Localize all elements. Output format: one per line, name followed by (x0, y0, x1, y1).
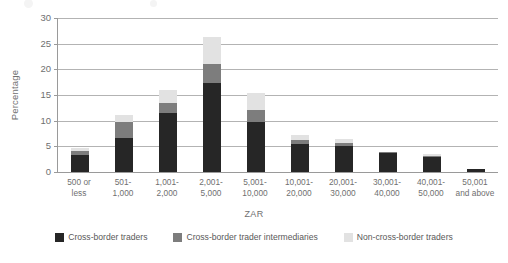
bar-segment[interactable] (159, 103, 177, 113)
x-axis-tick-label-line: 501- (113, 177, 134, 188)
legend-swatch (344, 233, 353, 242)
legend-swatch (173, 233, 182, 242)
scan-artifact (24, 0, 33, 8)
bar-segment[interactable] (291, 144, 309, 172)
bar-segment[interactable] (335, 146, 353, 172)
x-axis-tick-label: 2,001-5,000 (199, 177, 223, 199)
bar-group[interactable] (159, 90, 177, 172)
bar-series-container (58, 18, 498, 172)
bar-group[interactable] (203, 37, 221, 172)
y-axis-tick-label: 15 (40, 90, 51, 100)
legend-item[interactable]: Cross-border traders (55, 232, 147, 242)
x-axis-tick-label: 501-1,000 (113, 177, 134, 199)
bar-group[interactable] (467, 169, 485, 172)
x-axis-tick-label: 10,001-20,000 (285, 177, 313, 199)
bar-segment[interactable] (247, 110, 265, 122)
bar-group[interactable] (291, 135, 309, 172)
scan-artifact (150, 0, 157, 7)
bar-segment[interactable] (159, 90, 177, 103)
bar-segment[interactable] (159, 113, 177, 172)
bar-group[interactable] (115, 115, 133, 172)
bar-segment[interactable] (203, 83, 221, 172)
y-axis-tick-label: 30 (40, 13, 51, 23)
bar-segment[interactable] (247, 122, 265, 172)
bar-segment[interactable] (247, 93, 265, 110)
x-axis-tick-label-line: 10,001- (285, 177, 313, 188)
chart-legend: Cross-border tradersCross-border trader … (0, 232, 508, 242)
legend-label: Cross-border traders (68, 232, 147, 242)
y-axis-tick (54, 172, 58, 173)
bar-group[interactable] (71, 148, 89, 172)
x-axis-tick-label-line: 2,001- (199, 177, 223, 188)
y-axis-tick-label: 0 (46, 167, 51, 177)
x-axis-tick-label-line: 10,000 (242, 188, 267, 199)
x-axis-tick-label-line: 40,001- (417, 177, 445, 188)
bar-segment[interactable] (115, 122, 133, 138)
plot-area: 051015202530 (57, 18, 498, 173)
bar-group[interactable] (247, 93, 265, 172)
x-axis-tick-label-line: and above (456, 188, 495, 199)
y-axis-tick-label: 5 (46, 142, 51, 152)
legend-swatch (55, 233, 64, 242)
legend-item[interactable]: Cross-border trader intermediaries (173, 232, 317, 242)
x-axis-tick-label: 40,001-50,000 (417, 177, 445, 199)
x-axis-tick-label-line: 40,000 (373, 188, 401, 199)
bar-segment[interactable] (115, 138, 133, 172)
x-axis-tick-label-line: 2,000 (155, 188, 179, 199)
x-axis-tick-label-line: 1,001- (155, 177, 179, 188)
bar-segment[interactable] (115, 115, 133, 122)
x-axis-tick-label: 500 orless (67, 177, 91, 199)
chart-figure: Percentage 051015202530 500 orless501-1,… (0, 0, 508, 263)
bar-segment[interactable] (71, 155, 89, 172)
legend-label: Cross-border trader intermediaries (186, 232, 317, 242)
x-axis-tick-label-line: 20,000 (285, 188, 313, 199)
y-axis-tick-label: 20 (40, 65, 51, 75)
bar-group[interactable] (379, 152, 397, 173)
x-axis-tick-label-line: 5,000 (199, 188, 223, 199)
y-axis-tick-label: 10 (40, 116, 51, 126)
bar-segment[interactable] (203, 37, 221, 64)
x-axis-tick-label: 1,001-2,000 (155, 177, 179, 199)
x-axis-tick-label-line: 50,000 (417, 188, 445, 199)
x-axis-title: ZAR (0, 209, 508, 219)
x-axis-tick-label-line: 50,001 (456, 177, 495, 188)
bar-group[interactable] (335, 139, 353, 172)
x-axis-tick-label-line: less (67, 188, 91, 199)
y-axis-tick-label: 25 (40, 39, 51, 49)
x-axis-tick-label: 5,001-10,000 (242, 177, 267, 199)
x-axis-tick-label-line: 5,001- (242, 177, 267, 188)
x-axis-tick-labels: 500 orless501-1,0001,001-2,0002,001-5,00… (57, 177, 497, 209)
x-axis-tick-label-line: 20,001- (329, 177, 357, 188)
x-axis-tick-label-line: 30,000 (329, 188, 357, 199)
x-axis-tick-label: 20,001-30,000 (329, 177, 357, 199)
bar-segment[interactable] (467, 169, 485, 172)
legend-label: Non-cross-border traders (357, 232, 453, 242)
x-axis-tick-label-line: 500 or (67, 177, 91, 188)
bar-segment[interactable] (423, 157, 441, 172)
x-axis-tick-label: 50,001and above (456, 177, 495, 199)
bar-segment[interactable] (203, 64, 221, 83)
bar-group[interactable] (423, 154, 441, 172)
bar-segment[interactable] (379, 153, 397, 172)
x-axis-tick-label-line: 30,001- (373, 177, 401, 188)
y-axis-title: Percentage (9, 70, 20, 121)
x-axis-tick-label: 30,001-40,000 (373, 177, 401, 199)
x-axis-tick-label-line: 1,000 (113, 188, 134, 199)
legend-item[interactable]: Non-cross-border traders (344, 232, 453, 242)
